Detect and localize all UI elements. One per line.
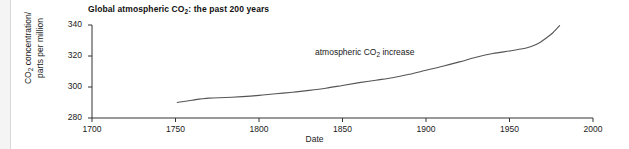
x-tick-label: 1950 xyxy=(490,124,530,134)
x-tick-marks xyxy=(92,118,593,122)
series-annotation-after: increase xyxy=(380,47,415,57)
y-tick-label: 300 xyxy=(54,81,82,91)
x-tick-label: 1900 xyxy=(406,124,446,134)
x-axis-title: Date xyxy=(0,134,629,144)
y-tick-label: 280 xyxy=(54,112,82,122)
co2-line-chart: Global atmospheric CO2: the past 200 yea… xyxy=(0,0,629,149)
y-tick-label: 320 xyxy=(54,50,82,60)
figure-page: Global atmospheric CO2: the past 200 yea… xyxy=(0,0,629,149)
y-tick-label: 340 xyxy=(54,19,82,29)
y-tick-marks xyxy=(88,25,92,118)
series-annotation: atmospheric CO2 increase xyxy=(315,47,415,57)
series-annotation-subscript: 2 xyxy=(376,51,380,58)
series-annotation-before: atmospheric CO xyxy=(315,47,376,57)
x-tick-label: 1850 xyxy=(323,124,363,134)
x-tick-label: 1700 xyxy=(72,124,112,134)
x-tick-label: 2000 xyxy=(573,124,613,134)
co2-data-line xyxy=(177,26,559,103)
x-tick-label: 1750 xyxy=(156,124,196,134)
x-tick-label: 1800 xyxy=(239,124,279,134)
